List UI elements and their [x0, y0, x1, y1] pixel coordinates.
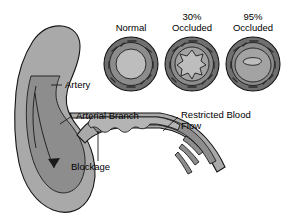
diagram-canvas: Normal 30% Occluded 95% Occluded Artery … [0, 0, 292, 222]
label-occluded-30-percent: 30% [182, 11, 202, 22]
normal-lumen [116, 49, 146, 79]
label-arterial-branch: Arterial Branch [76, 110, 139, 121]
label-blockage: Blockage [71, 161, 110, 172]
artery-blockage-diagram: Normal 30% Occluded 95% Occluded Artery … [0, 0, 292, 222]
label-normal: Normal [116, 22, 147, 33]
occluded30-lumen [177, 50, 206, 79]
label-artery: Artery [65, 79, 91, 90]
label-restricted-blood-flow-line2: Flow [181, 120, 201, 131]
cross-section-occluded-95 [226, 37, 280, 91]
occluded95-lumen [243, 58, 261, 66]
cross-section-normal [104, 37, 158, 91]
label-occluded-30-word: Occluded [172, 22, 212, 33]
label-occluded-95-percent: 95% [243, 11, 263, 22]
label-restricted-blood-flow-line1: Restricted Blood [181, 109, 251, 120]
cross-section-occluded-30 [165, 37, 219, 91]
label-occluded-95-word: Occluded [233, 22, 273, 33]
cross-section-labels: Normal 30% Occluded 95% Occluded [116, 11, 273, 33]
